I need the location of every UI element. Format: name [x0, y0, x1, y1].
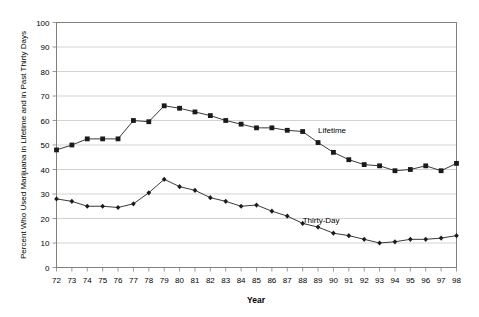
data-point-marker — [377, 240, 382, 245]
series-line-thirty-day — [57, 179, 457, 243]
data-point-marker — [131, 118, 136, 123]
x-tick-label: 83 — [221, 276, 230, 285]
x-axis-title: Year — [247, 295, 266, 305]
gridlines-group — [57, 47, 457, 243]
y-tick-label: 30 — [41, 190, 50, 199]
data-point-marker — [423, 163, 428, 168]
x-tick-label: 87 — [283, 276, 292, 285]
x-tick-label: 94 — [391, 276, 400, 285]
data-point-marker — [285, 128, 290, 133]
data-point-marker — [423, 237, 428, 242]
x-tick-label: 90 — [329, 276, 338, 285]
x-tick-label: 74 — [83, 276, 92, 285]
y-axis-ticks-group — [53, 23, 57, 268]
data-point-marker — [408, 237, 413, 242]
data-point-marker — [408, 167, 413, 172]
data-point-marker — [439, 236, 444, 241]
data-point-marker — [362, 237, 367, 242]
data-point-marker — [454, 233, 459, 238]
data-point-marker — [100, 136, 105, 141]
x-tick-label: 96 — [421, 276, 430, 285]
x-tick-label: 92 — [360, 276, 369, 285]
data-point-marker — [193, 110, 198, 115]
data-point-marker — [347, 233, 352, 238]
x-tick-label: 98 — [452, 276, 461, 285]
data-point-marker — [393, 168, 398, 173]
data-point-marker — [54, 148, 59, 153]
x-tick-label: 76 — [114, 276, 123, 285]
data-point-marker — [208, 113, 213, 118]
x-tick-label: 77 — [129, 276, 138, 285]
x-tick-label: 95 — [406, 276, 415, 285]
y-tick-label: 50 — [41, 141, 50, 150]
data-point-marker — [285, 213, 290, 218]
x-tick-label: 82 — [206, 276, 215, 285]
data-point-marker — [69, 143, 74, 148]
y-tick-label: 60 — [41, 117, 50, 126]
data-point-marker — [131, 201, 136, 206]
y-tick-label: 90 — [41, 43, 50, 52]
x-tick-label: 84 — [237, 276, 246, 285]
data-point-marker — [346, 157, 351, 162]
data-point-marker — [393, 239, 398, 244]
y-tick-label: 20 — [41, 215, 50, 224]
x-tick-label: 78 — [144, 276, 153, 285]
data-point-marker — [439, 168, 444, 173]
data-point-marker — [254, 125, 259, 130]
x-axis-tick-labels-group: 7273747576777879808182838485868788899091… — [52, 276, 461, 285]
data-point-marker — [300, 129, 305, 134]
data-point-marker — [177, 184, 182, 189]
y-axis-title: Percent Who Used Marijuana in Lifetime a… — [19, 31, 28, 259]
data-point-marker — [116, 205, 121, 210]
data-point-marker — [331, 150, 336, 155]
y-tick-label: 10 — [41, 239, 50, 248]
series-label-thirty-day: Thirty-Day — [303, 216, 340, 225]
x-tick-label: 79 — [160, 276, 169, 285]
y-tick-label: 40 — [41, 166, 50, 175]
data-point-marker — [270, 209, 275, 214]
data-point-marker — [362, 162, 367, 167]
x-axis-ticks-group — [57, 268, 457, 272]
data-point-marker — [223, 199, 228, 204]
data-point-marker — [162, 103, 167, 108]
series-label-lifetime: Lifetime — [318, 126, 347, 135]
y-tick-label: 0 — [45, 264, 50, 273]
x-tick-label: 85 — [252, 276, 261, 285]
series-labels-group: LifetimeThirty-Day — [303, 126, 347, 226]
data-point-marker — [239, 204, 244, 209]
x-tick-label: 93 — [375, 276, 384, 285]
chart-canvas: 0102030405060708090100 72737475767778798… — [0, 0, 479, 317]
y-tick-label: 100 — [36, 19, 50, 28]
data-point-marker — [316, 140, 321, 145]
data-point-marker — [85, 136, 90, 141]
data-point-marker — [146, 119, 151, 124]
data-point-marker — [100, 204, 105, 209]
y-tick-label: 80 — [41, 68, 50, 77]
data-point-marker — [454, 161, 459, 166]
data-point-marker — [116, 136, 121, 141]
y-tick-label: 70 — [41, 92, 50, 101]
data-point-marker — [223, 118, 228, 123]
x-tick-label: 86 — [267, 276, 276, 285]
marijuana-use-line-chart: 0102030405060708090100 72737475767778798… — [0, 0, 479, 317]
data-point-marker — [269, 125, 274, 130]
data-point-marker — [377, 163, 382, 168]
x-tick-label: 91 — [344, 276, 353, 285]
data-point-marker — [254, 202, 259, 207]
data-point-marker — [208, 195, 213, 200]
x-tick-label: 75 — [98, 276, 107, 285]
data-point-marker — [177, 106, 182, 111]
data-point-marker — [70, 199, 75, 204]
series-markers-group — [54, 103, 459, 245]
data-point-marker — [331, 231, 336, 236]
x-tick-label: 73 — [67, 276, 76, 285]
x-tick-label: 97 — [437, 276, 446, 285]
x-tick-label: 72 — [52, 276, 61, 285]
data-point-marker — [239, 122, 244, 127]
data-point-marker — [193, 188, 198, 193]
data-point-marker — [54, 196, 59, 201]
x-tick-label: 88 — [298, 276, 307, 285]
x-tick-label: 81 — [191, 276, 200, 285]
x-tick-label: 80 — [175, 276, 184, 285]
data-point-marker — [85, 204, 90, 209]
